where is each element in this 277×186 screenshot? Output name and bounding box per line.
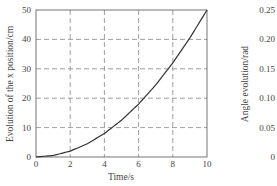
y-tick-label: 0 <box>27 152 32 162</box>
x-tick-label: 2 <box>68 159 73 169</box>
angle-y-tick-label: 0 <box>271 152 276 162</box>
angle-y-tick-label: 0.10 <box>259 93 275 103</box>
x-tick-label: 10 <box>203 159 213 169</box>
y-axis-label-angle: Angle evolution/rad <box>240 46 250 122</box>
x-tick-label: 4 <box>102 159 107 169</box>
y-tick-label: 10 <box>22 123 32 133</box>
angle-y-tick-label: 0.20 <box>259 34 275 44</box>
angle-chart: Angle evolution/rad 00.050.100.150.200.2… <box>240 5 276 162</box>
x-tick-labels: 0246810 <box>34 159 212 169</box>
angle-y-tick-labels: 00.050.100.150.200.25 <box>259 5 275 162</box>
grid-lines <box>36 10 207 157</box>
y-tick-label: 20 <box>22 93 32 103</box>
x-tick-label: 0 <box>34 159 39 169</box>
angle-y-tick-label: 0.15 <box>259 64 275 74</box>
y-tick-label: 40 <box>22 34 32 44</box>
y-tick-label: 30 <box>22 64 32 74</box>
angle-y-tick-label: 0.25 <box>259 5 275 15</box>
plot-frame <box>36 10 207 157</box>
x-tick-label: 8 <box>171 159 176 169</box>
x-axis-label: Time/s <box>108 172 134 182</box>
y-tick-labels: 01020304050 <box>22 5 32 162</box>
position-curve <box>36 10 207 157</box>
position-chart: 0246810 01020304050 Time/s Evolution of … <box>5 5 212 182</box>
x-tick-label: 6 <box>136 159 141 169</box>
y-axis-label: Evolution of the x position/cm <box>5 25 15 142</box>
angle-y-tick-label: 0.05 <box>259 123 275 133</box>
y-tick-label: 50 <box>22 5 32 15</box>
figure: 0246810 01020304050 Time/s Evolution of … <box>0 0 277 186</box>
